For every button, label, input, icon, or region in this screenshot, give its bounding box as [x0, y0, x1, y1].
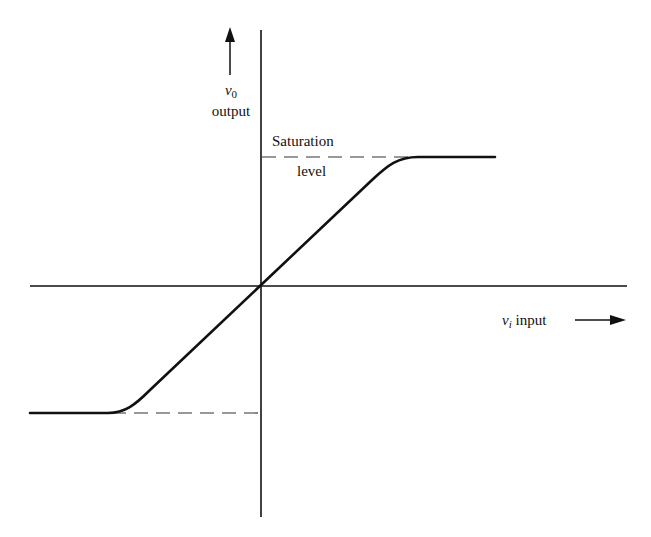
y-axis-symbol-letter: v: [225, 82, 232, 98]
input-arrow-icon: [575, 315, 626, 325]
transfer-curve: [30, 157, 495, 413]
x-axis-label: vi input: [502, 312, 546, 332]
saturation-label-line1: Saturation: [272, 133, 334, 149]
output-arrow-icon: [225, 27, 235, 75]
transfer-characteristic-diagram: [0, 0, 651, 537]
x-axis-symbol-letter: v: [502, 312, 509, 328]
x-axis-word: input: [515, 312, 546, 328]
saturation-label-line2: level: [297, 163, 326, 179]
y-axis-word: output: [202, 103, 260, 119]
y-axis-symbol: v0: [202, 82, 260, 102]
y-axis-symbol-subscript: 0: [232, 88, 238, 100]
x-axis-symbol-subscript: i: [509, 318, 512, 330]
y-axis-label: v0 output: [202, 82, 260, 119]
